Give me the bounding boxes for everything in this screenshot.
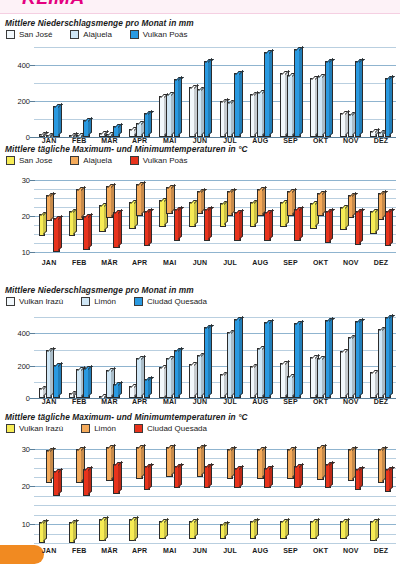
bar xyxy=(159,96,166,137)
month-label: APR xyxy=(125,547,155,554)
bar-side-face xyxy=(359,318,363,397)
bar xyxy=(189,521,196,539)
bar xyxy=(136,184,143,216)
bar xyxy=(287,75,294,137)
bar xyxy=(385,78,392,137)
bar-side-face xyxy=(58,362,62,397)
bar xyxy=(189,364,196,398)
bar-group xyxy=(64,308,94,398)
bar xyxy=(227,102,234,137)
bar-side-face xyxy=(239,209,243,240)
bar xyxy=(83,120,90,137)
chart-title: Mittlere Niederschlagsmenge pro Monat in… xyxy=(5,285,400,295)
bar-side-face xyxy=(269,319,273,397)
chart-title: Mittlere tägliche Maximum- und Minimumte… xyxy=(5,412,400,422)
legend-item: Vulkan Poás xyxy=(130,30,188,39)
month-label: OKT xyxy=(306,398,336,405)
bar-group xyxy=(275,167,305,259)
month-label: NOV xyxy=(336,137,366,144)
month-label: SEP xyxy=(275,259,305,266)
legend-item: Vulkan Irazú xyxy=(6,424,63,433)
bar xyxy=(325,61,332,138)
bar xyxy=(136,358,143,398)
bar-side-face xyxy=(239,465,243,488)
bar xyxy=(220,374,227,398)
bar xyxy=(144,379,151,398)
bar-side-face xyxy=(224,521,228,538)
legend-item: San Jose xyxy=(6,156,52,165)
bar-side-face xyxy=(231,188,235,215)
legend-label: Alajuela xyxy=(83,156,111,165)
bar xyxy=(220,101,227,137)
bar-side-face xyxy=(208,463,212,488)
bar-group xyxy=(366,41,396,137)
bar xyxy=(287,449,294,479)
month-label: OKT xyxy=(306,547,336,554)
bar-side-face xyxy=(81,186,85,218)
bar xyxy=(227,449,234,479)
bar xyxy=(310,521,317,540)
bar-group xyxy=(125,308,155,398)
bar xyxy=(310,203,317,228)
bar-group xyxy=(215,308,245,398)
legend-swatch-icon xyxy=(130,30,139,39)
month-label: JAN xyxy=(34,398,64,405)
month-label: OKT xyxy=(306,259,336,266)
bar-group xyxy=(306,435,336,547)
bar-side-face xyxy=(315,518,319,539)
bar xyxy=(340,113,347,137)
x-axis-month-labels: JANFEBMÄRAPRMAIJUNJULAUGSEPOKTNOVDEZ xyxy=(34,398,396,405)
bar xyxy=(53,471,60,496)
month-label: MÄR xyxy=(94,137,124,144)
bar xyxy=(174,79,181,137)
bar-side-face xyxy=(88,213,92,249)
bar-group xyxy=(215,167,245,259)
legend-item: San José xyxy=(6,30,52,39)
bar xyxy=(113,126,120,137)
y-axis-tick-label: 10 xyxy=(0,520,30,529)
month-label: MÄR xyxy=(94,398,124,405)
bar xyxy=(317,358,324,398)
bar-side-face xyxy=(285,518,289,538)
legend-label: Limón xyxy=(94,424,116,433)
bar-side-face xyxy=(58,215,62,251)
legend-swatch-icon xyxy=(6,30,15,39)
bar xyxy=(39,522,46,543)
bar-side-face xyxy=(88,466,92,495)
bar xyxy=(264,212,271,241)
bar xyxy=(113,384,120,398)
bar xyxy=(106,186,113,218)
bar-group xyxy=(366,167,396,259)
bar xyxy=(264,322,271,398)
bar xyxy=(46,450,53,482)
bar xyxy=(310,357,317,398)
legend-label: Ciudad Quesada xyxy=(147,424,207,433)
bar xyxy=(385,469,392,492)
bar-side-face xyxy=(148,463,152,490)
bar xyxy=(294,323,301,398)
bar-group xyxy=(64,167,94,259)
month-label: APR xyxy=(125,137,155,144)
bar-side-face xyxy=(389,75,393,136)
bar xyxy=(144,113,151,137)
legend-item: Limón xyxy=(81,297,116,306)
bar-side-face xyxy=(208,324,212,397)
bar xyxy=(370,211,377,234)
chart-plot-area: 102030 xyxy=(0,435,400,547)
bar xyxy=(370,521,377,542)
climate-page: KLIMA Mittlere Niederschlagsmenge pro Mo… xyxy=(0,0,400,566)
bar xyxy=(220,524,227,539)
bar xyxy=(280,73,287,137)
bar xyxy=(348,195,355,218)
bar-side-face xyxy=(389,208,393,246)
bar-groups xyxy=(34,41,396,137)
bar-group xyxy=(94,41,124,137)
legend-swatch-icon xyxy=(134,297,143,306)
bar xyxy=(136,447,143,479)
bar-side-face xyxy=(375,518,379,541)
x-axis-month-labels: JANFEBMÄRAPRMAIJUNJULAUGSEPOKTNOVDEZ xyxy=(34,137,396,144)
bar xyxy=(325,464,332,489)
bar-side-face xyxy=(239,70,243,136)
bar-side-face xyxy=(299,46,303,136)
month-label: NOV xyxy=(336,547,366,554)
